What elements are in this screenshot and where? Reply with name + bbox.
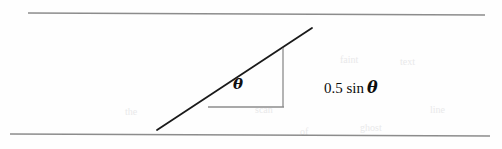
expression-prefix: 0.5 sin	[324, 80, 364, 96]
expression-label: 0.5 sinθ	[324, 80, 378, 96]
angle-theta-label: θ	[233, 77, 243, 92]
diagram-svg	[0, 0, 502, 149]
expression-theta-symbol: θ	[364, 78, 378, 97]
figure-canvas: the scan of faint text ghost line θ 0.5 …	[0, 0, 502, 149]
bottom-border-rule	[10, 134, 490, 136]
top-border-rule	[28, 13, 485, 15]
